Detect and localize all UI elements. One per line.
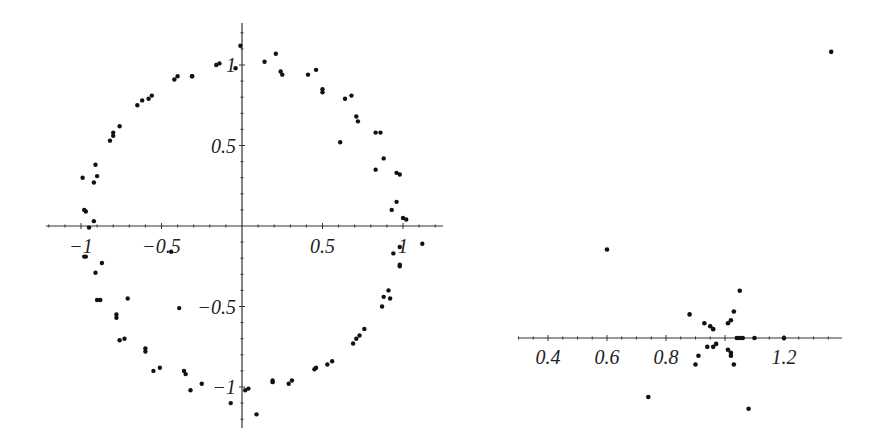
data-point bbox=[394, 200, 398, 204]
data-point bbox=[238, 43, 242, 47]
data-point bbox=[135, 103, 139, 107]
data-point bbox=[117, 338, 121, 342]
data-point bbox=[702, 321, 707, 326]
data-point bbox=[378, 130, 382, 134]
data-point bbox=[306, 72, 310, 76]
x-tick-label: −1 bbox=[69, 235, 93, 257]
right-scatter-plot: 0.40.60.81.2 bbox=[518, 50, 842, 412]
data-point bbox=[356, 119, 360, 123]
data-point bbox=[381, 295, 385, 299]
data-point bbox=[290, 378, 294, 382]
data-point bbox=[229, 401, 233, 405]
data-point bbox=[705, 345, 710, 350]
data-point bbox=[740, 336, 745, 341]
x-tick-label: 0.8 bbox=[654, 346, 679, 368]
data-point bbox=[190, 74, 194, 78]
data-point bbox=[386, 288, 390, 292]
data-point bbox=[117, 124, 121, 128]
data-point bbox=[373, 130, 377, 134]
data-point bbox=[177, 306, 181, 310]
data-point bbox=[158, 365, 162, 369]
data-point bbox=[175, 74, 179, 78]
data-point bbox=[146, 97, 150, 101]
data-point bbox=[325, 362, 329, 366]
data-point bbox=[93, 270, 97, 274]
data-point bbox=[314, 68, 318, 72]
data-point bbox=[404, 217, 408, 221]
data-point bbox=[114, 316, 118, 320]
x-tick-label: 0.5 bbox=[310, 235, 335, 257]
data-point bbox=[150, 93, 154, 97]
data-point bbox=[732, 362, 737, 367]
data-point bbox=[108, 138, 112, 142]
data-point bbox=[183, 372, 187, 376]
data-point bbox=[92, 180, 96, 184]
data-point bbox=[217, 61, 221, 65]
data-point bbox=[351, 341, 355, 345]
data-point bbox=[122, 337, 126, 341]
data-point bbox=[605, 247, 610, 252]
data-point bbox=[349, 93, 353, 97]
data-point bbox=[687, 312, 692, 317]
data-point bbox=[80, 176, 84, 180]
data-point bbox=[280, 72, 284, 76]
x-tick-label: 0.6 bbox=[595, 346, 620, 368]
data-point bbox=[398, 264, 402, 268]
data-point bbox=[646, 395, 651, 400]
data-point bbox=[151, 369, 155, 373]
data-point bbox=[391, 251, 395, 255]
data-point bbox=[388, 296, 392, 300]
data-point bbox=[390, 208, 394, 212]
data-point bbox=[92, 219, 96, 223]
data-point bbox=[362, 327, 366, 331]
x-tick-label: −0.5 bbox=[142, 235, 181, 257]
data-point bbox=[98, 298, 102, 302]
data-point bbox=[200, 382, 204, 386]
data-point bbox=[420, 242, 424, 246]
data-point bbox=[274, 52, 278, 56]
data-point bbox=[140, 98, 144, 102]
data-point bbox=[729, 353, 734, 358]
left-scatter-plot: −1−0.50.5110.5−0.5−1 bbox=[46, 23, 443, 428]
data-point bbox=[338, 140, 342, 144]
data-point bbox=[782, 336, 787, 341]
data-point bbox=[100, 261, 104, 265]
data-point bbox=[330, 359, 334, 363]
x-tick-label: 0.4 bbox=[536, 346, 561, 368]
x-tick-label: 1.2 bbox=[772, 346, 797, 368]
data-point bbox=[737, 289, 742, 294]
data-point bbox=[381, 156, 385, 160]
scatter-plots: −1−0.50.5110.5−0.5−1 0.40.60.81.2 bbox=[0, 0, 883, 447]
data-point bbox=[87, 225, 91, 229]
data-point bbox=[169, 250, 173, 254]
data-point bbox=[752, 336, 757, 341]
data-point bbox=[714, 342, 719, 347]
data-point bbox=[262, 60, 266, 64]
data-point bbox=[354, 114, 358, 118]
data-point bbox=[111, 134, 115, 138]
data-point bbox=[380, 304, 384, 308]
data-point bbox=[233, 66, 237, 70]
data-point bbox=[398, 172, 402, 176]
data-point bbox=[270, 380, 274, 384]
data-point bbox=[732, 309, 737, 314]
data-point bbox=[84, 254, 88, 258]
data-point bbox=[357, 333, 361, 337]
data-point bbox=[726, 321, 731, 326]
data-point bbox=[93, 163, 97, 167]
data-point bbox=[696, 353, 701, 358]
y-tick-label: −1 bbox=[213, 376, 237, 398]
data-point bbox=[343, 97, 347, 101]
data-point bbox=[398, 245, 402, 249]
data-point bbox=[829, 50, 834, 55]
data-point bbox=[746, 407, 751, 412]
data-point bbox=[143, 349, 147, 353]
y-tick-label: −0.5 bbox=[198, 296, 237, 318]
data-point bbox=[320, 90, 324, 94]
data-point bbox=[188, 388, 192, 392]
data-point bbox=[254, 412, 258, 416]
y-tick-label: 1 bbox=[226, 54, 236, 76]
data-point bbox=[125, 296, 129, 300]
data-point bbox=[95, 174, 99, 178]
data-point bbox=[314, 365, 318, 369]
